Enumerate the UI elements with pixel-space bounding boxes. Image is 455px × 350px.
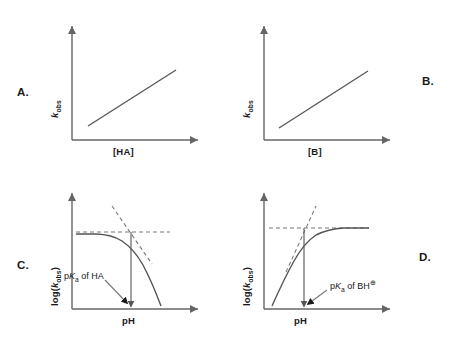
y-axis-label: kobs bbox=[49, 100, 62, 118]
y-axis-label: kobs bbox=[241, 100, 254, 118]
annotation-arrow bbox=[105, 280, 127, 303]
annotation-arrow bbox=[308, 290, 327, 304]
panel-label-c: C. bbox=[17, 259, 29, 271]
panel-label-a: A. bbox=[17, 86, 29, 98]
panel-c-plot bbox=[0, 175, 227, 350]
tangent-asymptote bbox=[112, 206, 152, 264]
panel-a: kobs [HA] bbox=[0, 0, 227, 175]
panel-label-b: B. bbox=[422, 75, 434, 87]
panel-label-d: D. bbox=[419, 251, 431, 263]
x-axis-label: pH bbox=[122, 315, 135, 326]
sigmoid-curve bbox=[76, 234, 161, 306]
pka-annotation: pKa of BH⊕ bbox=[330, 279, 376, 293]
y-axis-label: log(kobs) bbox=[49, 267, 62, 306]
data-line bbox=[88, 70, 176, 126]
x-axis-label: [B] bbox=[308, 146, 322, 157]
panel-b-plot bbox=[228, 0, 455, 175]
panel-c: log(kobs) pKa of HA pH bbox=[0, 175, 227, 350]
data-line bbox=[279, 71, 368, 128]
kinetics-figure: kobs [HA] kobs [B] bbox=[0, 0, 455, 350]
x-axis-label: [HA] bbox=[113, 146, 134, 157]
pka-annotation: pKa of HA bbox=[64, 271, 104, 283]
x-axis-label: pH bbox=[294, 315, 307, 326]
y-axis-label: log(kobs) bbox=[241, 267, 254, 306]
panel-b: kobs [B] bbox=[228, 0, 455, 175]
